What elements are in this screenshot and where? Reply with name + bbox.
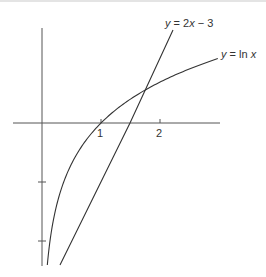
label-line-eq: = 2	[171, 17, 190, 29]
label-ln-eq: = ln	[227, 48, 251, 60]
linear-curve	[60, 30, 173, 265]
label-ln: y = ln x	[221, 48, 256, 60]
graph-canvas	[0, 0, 266, 277]
x-tick-label-1: 1	[97, 127, 103, 139]
label-ln-arg: x	[251, 48, 257, 60]
ln-curve	[47, 59, 218, 265]
label-line: y = 2x − 3	[165, 17, 213, 29]
x-tick-label-2: 2	[156, 127, 162, 139]
label-line-tail: − 3	[195, 17, 214, 29]
